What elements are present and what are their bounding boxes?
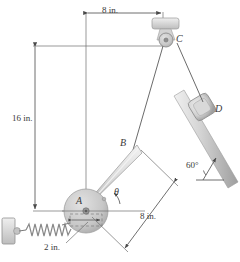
cable-b-to-c	[133, 46, 163, 150]
dimension-label-crank: 8 in.	[140, 211, 156, 221]
pulley-at-c	[159, 33, 173, 47]
angle-label-theta: θ	[114, 186, 119, 197]
crank-disk-a	[62, 189, 145, 233]
angle-label-60: 60°	[186, 160, 199, 170]
point-label-a: A	[76, 195, 82, 206]
wall-support	[2, 218, 20, 244]
point-label-d: D	[215, 103, 222, 114]
spring	[19, 223, 71, 236]
dimension-left-16in	[33, 46, 163, 211]
dimension-label-left: 16 in.	[12, 113, 33, 123]
dimension-label-top: 8 in.	[102, 5, 118, 15]
figure-canvas	[0, 0, 240, 262]
dimension-label-disk: 2 in.	[44, 242, 60, 252]
point-label-b: B	[120, 137, 126, 148]
dimension-top-8in	[86, 12, 163, 215]
mechanism-figure: 8 in. 16 in. 8 in. 2 in. A B C D θ 60°	[0, 0, 240, 262]
point-label-c: C	[176, 33, 183, 44]
